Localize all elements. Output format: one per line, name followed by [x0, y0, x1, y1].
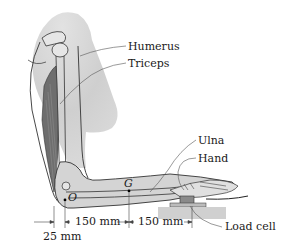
- dimension-150mm-2: 150 mm: [138, 216, 183, 227]
- triceps-label: Triceps: [128, 58, 169, 69]
- arm-diagram: Humerus Triceps Ulna Hand G O 150 mm 150…: [0, 0, 286, 250]
- humerus-head: [52, 43, 68, 57]
- point-g-label: G: [124, 178, 133, 189]
- dimension-25mm: 25 mm: [43, 231, 81, 242]
- dimension-150mm-1: 150 mm: [75, 216, 120, 227]
- point-o-marker: [64, 199, 67, 202]
- ulna-label: Ulna: [198, 135, 224, 146]
- arm-illustration: [0, 0, 286, 250]
- platform-top: [170, 203, 206, 207]
- point-g-marker: [128, 190, 131, 193]
- humerus-label: Humerus: [128, 41, 180, 52]
- point-o-label: O: [68, 192, 77, 203]
- load-cell-label: Load cell: [225, 221, 276, 232]
- load-cell-cable: [206, 196, 248, 199]
- hand-label: Hand: [198, 153, 228, 164]
